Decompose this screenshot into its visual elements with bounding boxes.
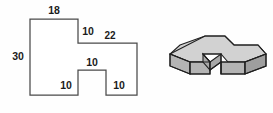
geometry-figure: 18 10 22 30 10 10 10 bbox=[0, 0, 273, 113]
figure-root: 18 10 22 30 10 10 10 bbox=[0, 0, 273, 113]
dim-label-notch-left: 10 bbox=[60, 79, 72, 91]
dim-label-notch-right: 10 bbox=[113, 79, 125, 91]
dim-label-left-height: 30 bbox=[12, 50, 24, 62]
solid-right-front-face bbox=[221, 62, 245, 74]
dim-label-upper-right-drop: 10 bbox=[82, 25, 94, 37]
isometric-solid-group bbox=[170, 36, 266, 74]
dim-label-top-width: 18 bbox=[48, 4, 60, 16]
dim-label-notch-top: 10 bbox=[86, 56, 98, 68]
solid-notch-bottom-face bbox=[210, 54, 221, 70]
dim-label-overall-width: 22 bbox=[104, 30, 116, 41]
